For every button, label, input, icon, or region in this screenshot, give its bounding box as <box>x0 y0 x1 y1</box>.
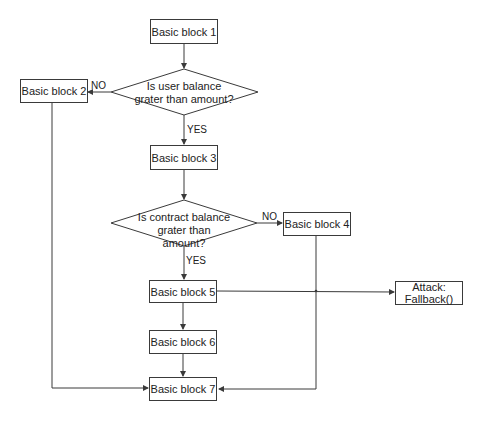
basic-block-3-label: Basic block 3 <box>152 152 217 164</box>
basic-block-5: Basic block 5 <box>149 280 217 303</box>
flow-connectors <box>0 0 485 421</box>
basic-block-6: Basic block 6 <box>149 330 217 354</box>
attack-fallback-label: Attack: Fallback() <box>402 281 456 305</box>
basic-block-5-label: Basic block 5 <box>151 286 216 298</box>
decision-1-no-label: NO <box>91 80 106 91</box>
decision-user-balance-text: Is user balance grater than amount? <box>132 80 236 106</box>
decision-2-no-label: NO <box>262 211 277 222</box>
decision-1-yes-label: YES <box>187 124 207 135</box>
basic-block-7-label: Basic block 7 <box>151 383 216 395</box>
basic-block-7: Basic block 7 <box>149 377 217 401</box>
basic-block-6-label: Basic block 6 <box>151 336 216 348</box>
decision-contract-balance-text: Is contract balance grater than amount? <box>136 211 232 250</box>
basic-block-3: Basic block 3 <box>150 145 218 170</box>
basic-block-4-label: Basic block 4 <box>285 218 350 230</box>
basic-block-2-label: Basic block 2 <box>22 85 87 97</box>
basic-block-2: Basic block 2 <box>20 79 88 103</box>
attack-fallback-block: Attack: Fallback() <box>395 281 463 305</box>
basic-block-4: Basic block 4 <box>283 212 351 236</box>
basic-block-1: Basic block 1 <box>150 19 218 44</box>
decision-2-yes-label: YES <box>186 255 206 266</box>
basic-block-1-label: Basic block 1 <box>152 26 217 38</box>
